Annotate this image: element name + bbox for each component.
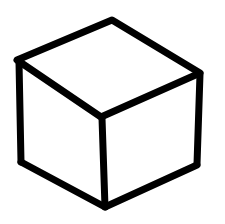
cube-drawing: [0, 0, 225, 224]
cube-icon: [0, 0, 225, 224]
